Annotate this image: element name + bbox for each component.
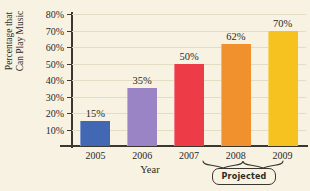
y-axis-tick xyxy=(67,31,72,32)
y-axis-tick xyxy=(67,97,72,98)
y-axis-tick xyxy=(67,130,72,131)
y-axis-title: Percentage that Can Play Music xyxy=(2,0,28,100)
x-axis-tick-label: 2009 xyxy=(273,150,293,161)
y-axis-tick-label: 70% xyxy=(46,25,64,36)
y-axis-title-line-1: Percentage that xyxy=(4,12,15,70)
bar-rect xyxy=(174,64,204,147)
bar-rect xyxy=(268,31,298,147)
bar: 70% xyxy=(268,14,298,146)
y-axis-tick xyxy=(67,80,72,81)
y-axis-tick-label: 10% xyxy=(46,124,64,135)
bar-value-label: 50% xyxy=(179,51,198,62)
bar: 35% xyxy=(127,14,157,146)
y-axis-tick-label: 60% xyxy=(46,42,64,53)
bar-value-label: 70% xyxy=(273,18,292,29)
y-axis-tick-label: 30% xyxy=(46,91,64,102)
y-axis-tick xyxy=(67,14,72,15)
plot-area: 10%20%30%40%50%60%70%80%15%35%50%62%70% xyxy=(72,14,306,146)
bar-rect xyxy=(80,121,110,146)
x-axis-tick-label: 2005 xyxy=(85,150,105,161)
y-axis-tick xyxy=(67,113,72,114)
y-axis-tick xyxy=(67,64,72,65)
bar: 15% xyxy=(80,14,110,146)
projected-label: Projected xyxy=(222,172,267,181)
projected-annotation: Projected xyxy=(201,160,285,189)
bar-value-label: 15% xyxy=(86,108,105,119)
y-axis-tick xyxy=(67,47,72,48)
bar: 62% xyxy=(221,14,251,146)
projected-label-box: Projected xyxy=(212,168,276,185)
y-axis-tick-label: 20% xyxy=(46,108,64,119)
y-axis-tick-label: 80% xyxy=(46,9,64,20)
y-axis-tick-label: 50% xyxy=(46,58,64,69)
bar-value-label: 35% xyxy=(133,75,152,86)
bar: 50% xyxy=(174,14,204,146)
x-axis-tick-label: 2006 xyxy=(132,150,152,161)
bar-rect xyxy=(127,88,157,146)
y-axis-tick-label: 40% xyxy=(46,75,64,86)
x-axis-tick-label: 2007 xyxy=(179,150,199,161)
bar-value-label: 62% xyxy=(226,31,245,42)
y-axis-title-line-2: Can Play Music xyxy=(15,11,26,72)
bar-chart: Percentage that Can Play Music 10%20%30%… xyxy=(0,0,310,191)
bar-rect xyxy=(221,44,251,146)
x-axis-tick-label: 2008 xyxy=(226,150,246,161)
x-axis-title: Year xyxy=(140,164,159,175)
